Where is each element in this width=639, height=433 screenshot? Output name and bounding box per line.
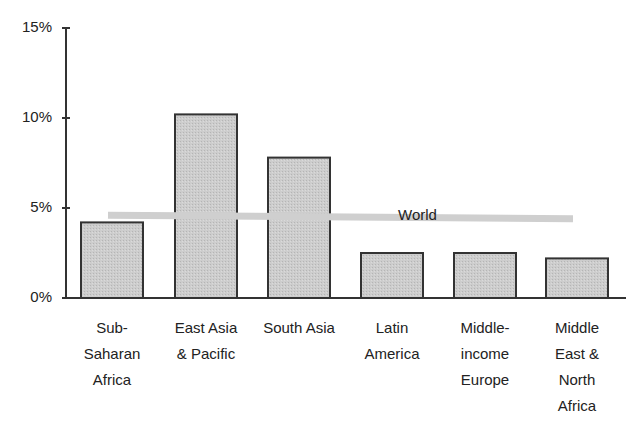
x-category-label: Sub- Saharan Africa xyxy=(64,315,160,393)
world-reference-line xyxy=(108,215,573,219)
y-tick-label: 5% xyxy=(2,198,52,215)
bar xyxy=(81,222,143,298)
bar xyxy=(361,253,423,298)
x-category-label: East Asia & Pacific xyxy=(158,315,254,367)
y-tick-label: 15% xyxy=(2,18,52,35)
bar xyxy=(268,158,330,298)
y-tick-label: 0% xyxy=(2,288,52,305)
world-line-label: World xyxy=(398,206,437,223)
x-category-label: Middle East & North Africa xyxy=(529,315,625,419)
x-category-label: South Asia xyxy=(251,315,347,341)
y-tick-label: 10% xyxy=(2,108,52,125)
x-category-label: Latin America xyxy=(344,315,440,367)
bar xyxy=(546,258,608,298)
bar xyxy=(175,114,237,298)
world-line xyxy=(108,215,573,219)
x-category-label: Middle- income Europe xyxy=(437,315,533,393)
bars-group xyxy=(81,114,608,298)
bar xyxy=(454,253,516,298)
